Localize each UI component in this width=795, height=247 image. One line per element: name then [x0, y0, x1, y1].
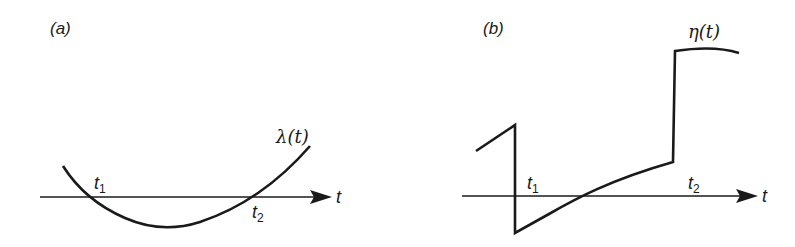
panel-b-label: (b) [483, 19, 504, 38]
panel-a-curve-label: λ(t) [275, 126, 309, 147]
panel-b-eta-curve [476, 49, 739, 233]
panel-b-t2-label: t2 [688, 173, 700, 196]
panel-a-label: (a) [50, 19, 71, 38]
panel-a: (a) t λ(t) t1 t2 [40, 19, 342, 227]
panel-b-axis-label: t [762, 186, 768, 206]
panel-b: (b) t η(t) t1 t2 [462, 19, 768, 233]
panel-a-t1-label: t1 [94, 173, 106, 196]
panel-a-t2-label: t2 [252, 202, 264, 225]
panel-b-curve-label: η(t) [688, 21, 720, 42]
figure-canvas: (a) t λ(t) t1 t2 (b) t η(t) t1 t2 [0, 0, 795, 247]
panel-a-axis-label: t [336, 187, 342, 207]
panel-b-t1-label: t1 [527, 173, 539, 196]
